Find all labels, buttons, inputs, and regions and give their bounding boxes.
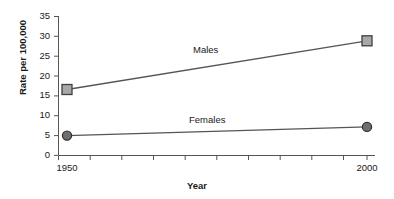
data-point-males-1950 — [62, 85, 72, 95]
x-axis-title: Year — [0, 180, 394, 191]
x-axis-ticks — [59, 156, 368, 161]
y-tick-label-0: 0 — [24, 150, 50, 160]
data-point-males-2000 — [362, 36, 372, 46]
y-axis-title: Rate per 100,000 — [17, 0, 28, 118]
y-tick-label-5: 5 — [24, 130, 50, 140]
series-annotation-females: Females — [189, 114, 225, 125]
data-point-females-2000 — [362, 122, 371, 131]
series-annotation-males: Males — [193, 44, 218, 55]
y-tick-label-10: 10 — [24, 110, 50, 120]
y-tick-label-25: 25 — [24, 51, 50, 61]
y-axis-ticks — [54, 17, 59, 156]
y-tick-label-30: 30 — [24, 31, 50, 41]
x-tick-label-1950: 1950 — [45, 163, 89, 173]
series-line-females — [67, 127, 367, 136]
data-point-females-1950 — [62, 131, 71, 140]
y-tick-label-15: 15 — [24, 90, 50, 100]
x-tick-label-2000: 2000 — [345, 163, 389, 173]
y-tick-label-20: 20 — [24, 71, 50, 81]
y-tick-label-35: 35 — [24, 11, 50, 21]
line-chart: 35 30 25 20 15 10 5 0 1950 2000 Males Fe… — [0, 0, 394, 199]
